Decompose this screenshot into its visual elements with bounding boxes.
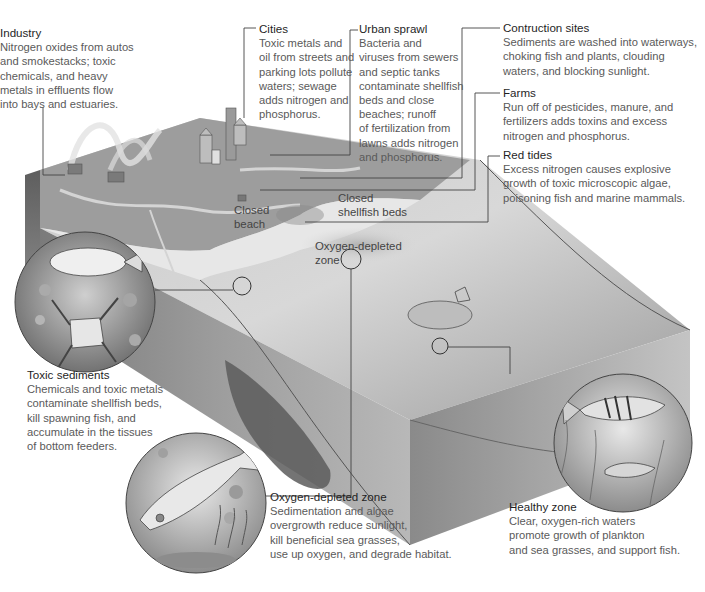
callout-title: Red tides (503, 148, 685, 162)
callout-line: fertilizers adds toxins and excess (503, 114, 673, 128)
fish-net (408, 301, 472, 329)
callout-title: Cities (259, 22, 354, 36)
callout-line: promote growth of plankton (509, 528, 680, 542)
callout-line: chemicals, and heavy (0, 69, 134, 83)
callout-line: metals in effluents flow (0, 83, 134, 97)
callout-line: and sea grasses, and support fish. (509, 543, 680, 557)
callout-line: contaminate shellfish (359, 79, 463, 93)
callout-industry: Industry Nitrogen oxides from autos and … (0, 26, 134, 111)
label-closed-shellfish-beds: Closed shellfish beds (338, 191, 407, 219)
callout-cities: Cities Toxic metals and oil from streets… (259, 22, 354, 121)
callout-title: Industry (0, 26, 134, 40)
callout-oxygen-depleted-zone: Oxygen-depleted zone Sedimentation and a… (270, 490, 452, 561)
callout-line: oil from streets and (259, 50, 354, 64)
callout-line: of fertilization from (359, 121, 463, 135)
callout-line: accumulate in the tissues (27, 425, 163, 439)
callout-line: use up oxygen, and degrade habitat. (270, 547, 452, 561)
callout-title: Toxic sediments (27, 368, 163, 382)
callout-urban-sprawl: Urban sprawl Bacteria and viruses from s… (359, 22, 463, 164)
striped-fish-icon (554, 374, 692, 512)
callout-title: Contruction sites (503, 21, 697, 35)
callout-line: Nitrogen oxides from autos (0, 40, 134, 54)
label-line: beach (234, 217, 269, 231)
callout-title: Oxygen-depleted zone (270, 490, 452, 504)
callout-line: kill beneficial sea grasses, (270, 533, 452, 547)
callout-line: contaminate shellfish beds, (27, 396, 163, 410)
callout-line: and phosphorus. (359, 150, 463, 164)
coastal-pollution-diagram: Industry Nitrogen oxides from autos and … (0, 0, 705, 592)
callout-line: beds and close (359, 93, 463, 107)
callout-line: beaches; runoff (359, 107, 463, 121)
callout-line: phosphorus. (259, 107, 354, 121)
callout-healthy-zone: Healthy zone Clear, oxygen-rich waters p… (509, 500, 680, 557)
callout-line: into bays and estuaries. (0, 97, 134, 111)
callout-line: lawns adds nitrogen (359, 136, 463, 150)
callout-line: poisoning fish and marine mammals. (503, 191, 685, 205)
callout-line: kill spawning fish, and (27, 411, 163, 425)
callout-line: parking lots pollute (259, 65, 354, 79)
callout-line: Sedimentation and algae (270, 504, 452, 518)
callout-line: Clear, oxygen-rich waters (509, 514, 680, 528)
callout-line: growth of toxic microscopic algae, (503, 176, 685, 190)
label-line: zone (315, 253, 402, 267)
callout-line: overgrowth reduce sunlight, (270, 518, 452, 532)
flounder-crab-icon (15, 232, 155, 372)
label-line: shellfish beds (338, 205, 407, 219)
label-line: Closed (338, 191, 407, 205)
callout-farms: Farms Run off of pesticides, manure, and… (503, 86, 673, 143)
callout-title: Urban sprawl (359, 22, 463, 36)
fish-seagrass-icon (126, 433, 266, 573)
callout-line: Excess nitrogen causes explosive (503, 162, 685, 176)
callout-line: nitrogen and phosphorus. (503, 129, 673, 143)
callout-red-tides: Red tides Excess nitrogen causes explosi… (503, 148, 685, 205)
callout-line: of bottom feeders. (27, 439, 163, 453)
label-line: Oxygen-depleted (315, 239, 402, 253)
callout-line: Run off of pesticides, manure, and (503, 100, 673, 114)
label-line: Closed (234, 203, 269, 217)
callout-title: Healthy zone (509, 500, 680, 514)
callout-line: adds nitrogen and (259, 93, 354, 107)
callout-title: Farms (503, 86, 673, 100)
callout-line: waters, and blocking sunlight. (503, 64, 697, 78)
callout-line: Chemicals and toxic metals (27, 382, 163, 396)
callout-line: Bacteria and (359, 36, 463, 50)
callout-line: Sediments are washed into waterways, (503, 35, 697, 49)
callout-line: viruses from sewers (359, 50, 463, 64)
label-closed-beach: Closed beach (234, 203, 269, 231)
callout-toxic-sediments: Toxic sediments Chemicals and toxic meta… (27, 368, 163, 453)
callout-line: choking fish and plants, clouding (503, 49, 697, 63)
label-oxygen-depleted-zone: Oxygen-depleted zone (315, 239, 402, 267)
callout-line: and septic tanks (359, 65, 463, 79)
callout-line: and smokestacks; toxic (0, 54, 134, 68)
callout-line: waters; sewage (259, 79, 354, 93)
callout-construction-sites: Contruction sites Sediments are washed i… (503, 21, 697, 78)
callout-line: Toxic metals and (259, 36, 354, 50)
